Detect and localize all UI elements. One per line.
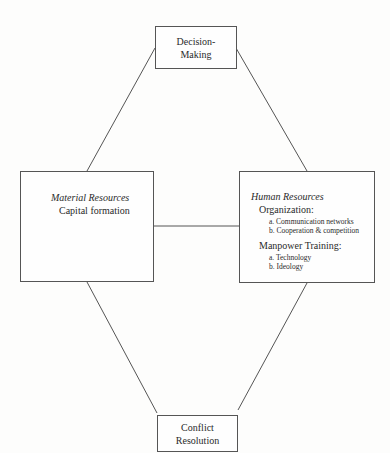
node-label-line1: Conflict bbox=[158, 421, 237, 434]
edge-left-bottom bbox=[87, 282, 157, 413]
manpower-item: a. Technology bbox=[269, 253, 311, 262]
edge-top-right bbox=[236, 48, 307, 171]
node-title: Material Resources bbox=[51, 192, 129, 203]
node-material-resources: Material Resources Capital formation bbox=[20, 171, 154, 282]
node-label-line2: Resolution bbox=[158, 434, 237, 447]
node-label-line2: Making bbox=[156, 48, 236, 61]
organization-item: a. Communication networks bbox=[269, 217, 354, 226]
manpower-heading: Manpower Training: bbox=[259, 240, 342, 251]
node-human-resources: Human Resources Organization: a. Communi… bbox=[239, 171, 375, 283]
edge-top-left bbox=[87, 48, 155, 171]
organization-item: b. Cooperation & competition bbox=[269, 226, 359, 235]
node-label-line1: Decision- bbox=[156, 35, 236, 48]
organization-heading: Organization: bbox=[259, 204, 314, 215]
manpower-item: b. Ideology bbox=[269, 262, 303, 271]
node-decision-making: Decision- Making bbox=[155, 26, 237, 69]
edge-right-bottom bbox=[238, 283, 307, 410]
node-item: Capital formation bbox=[59, 205, 130, 216]
node-title: Human Resources bbox=[251, 191, 324, 202]
node-conflict-resolution: Conflict Resolution bbox=[157, 415, 238, 452]
